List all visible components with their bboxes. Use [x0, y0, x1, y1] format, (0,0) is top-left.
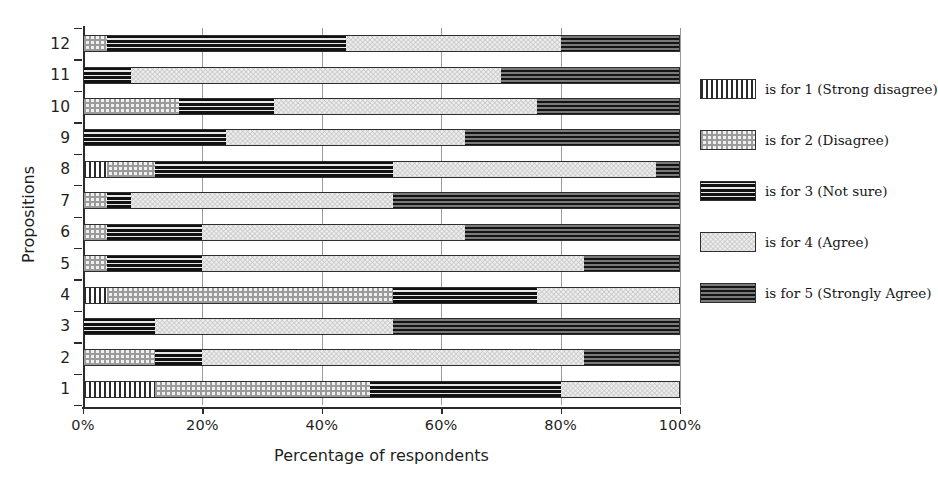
bar-segment-not-sure	[155, 161, 394, 178]
bar-segment-agree	[393, 161, 656, 178]
y-tick	[74, 91, 82, 92]
y-tick	[74, 28, 82, 29]
legend-item-disagree: is for 2 (Disagree)	[700, 129, 935, 151]
x-tick-label: 80%	[544, 417, 577, 433]
bar-segment-disagree	[83, 192, 107, 209]
y-tick-label-3: 3	[60, 317, 70, 335]
bar-segment-strongly-agree	[584, 349, 680, 366]
y-tick-label-2: 2	[60, 349, 70, 367]
x-axis-line	[82, 407, 681, 409]
y-tick-label-10: 10	[50, 98, 70, 116]
x-tick	[83, 407, 84, 414]
x-tick-label: 40%	[305, 417, 338, 433]
bar-segment-agree	[226, 129, 465, 146]
bar-segment-not-sure	[83, 129, 226, 146]
bar-segment-agree	[131, 67, 501, 84]
bar-segment-agree	[155, 318, 394, 335]
bar-segment-strong-disagree	[83, 287, 107, 304]
gridline	[680, 28, 681, 405]
bar-segment-agree	[346, 35, 561, 52]
bar-segment-not-sure	[370, 381, 561, 398]
y-tick-label-1: 1	[60, 380, 70, 398]
bar-segment-not-sure	[107, 255, 203, 272]
y-tick-label-4: 4	[60, 286, 70, 304]
bar-row	[83, 161, 680, 178]
x-tick	[202, 407, 203, 414]
y-axis-title: Propositions	[19, 135, 38, 295]
bar-segment-strongly-agree	[561, 35, 680, 52]
x-tick-label: 20%	[186, 417, 219, 433]
y-tick-label-7: 7	[60, 192, 70, 210]
bar-segment-not-sure	[107, 35, 346, 52]
legend-item-not-sure: is for 3 (Not sure)	[700, 180, 935, 202]
bar-segment-strongly-agree	[537, 98, 680, 115]
y-tick-label-5: 5	[60, 255, 70, 273]
bar-segment-agree	[561, 381, 680, 398]
bar-segment-agree	[274, 98, 537, 115]
bar-segment-disagree	[107, 161, 155, 178]
x-tick	[561, 407, 562, 414]
x-tick	[322, 407, 323, 414]
legend-item-agree: is for 4 (Agree)	[700, 231, 935, 253]
bar-segment-strongly-agree	[584, 255, 680, 272]
legend-item-strongly-agree: is for 5 (Strongly Agree)	[700, 282, 935, 304]
bar-segment-strongly-agree	[656, 161, 680, 178]
legend-label: is for 3 (Not sure)	[765, 183, 888, 199]
y-tick-label-8: 8	[60, 160, 70, 178]
legend-swatch-strongly-agree	[700, 283, 756, 303]
y-tick	[74, 122, 82, 123]
bar-segment-strongly-agree	[465, 224, 680, 241]
bar-segment-not-sure	[83, 318, 155, 335]
y-tick	[74, 311, 82, 312]
x-tick-label: 60%	[425, 417, 458, 433]
bar-segment-disagree	[83, 349, 155, 366]
bar-row	[83, 255, 680, 272]
legend-label: is for 1 (Strong disagree)	[765, 81, 938, 97]
x-tick	[441, 407, 442, 414]
bar-segment-agree	[537, 287, 680, 304]
y-tick	[74, 374, 82, 375]
bar-row	[83, 129, 680, 146]
bar-segment-agree	[131, 192, 394, 209]
x-tick-label: 0%	[71, 417, 94, 433]
bar-segment-agree	[202, 349, 584, 366]
y-tick	[74, 248, 82, 249]
bar-segment-strongly-agree	[501, 67, 680, 84]
bar-segment-disagree	[107, 287, 394, 304]
y-tick	[74, 279, 82, 280]
bar-row	[83, 67, 680, 84]
y-tick	[74, 405, 82, 406]
legend: is for 1 (Strong disagree)is for 2 (Disa…	[700, 78, 935, 333]
bar-segment-not-sure	[107, 224, 203, 241]
y-tick	[74, 59, 82, 60]
bar-row	[83, 349, 680, 366]
y-tick	[74, 154, 82, 155]
bar-row	[83, 381, 680, 398]
bar-row	[83, 318, 680, 335]
y-tick	[74, 217, 82, 218]
bar-segment-not-sure	[83, 67, 131, 84]
legend-swatch-agree	[700, 232, 756, 252]
bar-row	[83, 98, 680, 115]
legend-swatch-not-sure	[700, 181, 756, 201]
bar-row	[83, 287, 680, 304]
x-tick	[680, 407, 681, 414]
bar-segment-strong-disagree	[83, 381, 155, 398]
legend-swatch-disagree	[700, 130, 756, 150]
bar-segment-not-sure	[179, 98, 275, 115]
bar-segment-agree	[202, 255, 584, 272]
bar-row	[83, 35, 680, 52]
bar-segment-disagree	[83, 224, 107, 241]
legend-item-strong-disagree: is for 1 (Strong disagree)	[700, 78, 935, 100]
y-tick-label-11: 11	[50, 66, 70, 84]
x-tick-label: 100%	[659, 417, 701, 433]
legend-label: is for 2 (Disagree)	[765, 132, 889, 148]
bar-row	[83, 224, 680, 241]
x-axis-title: Percentage of respondents	[83, 446, 680, 465]
y-tick-label-12: 12	[50, 35, 70, 53]
bar-segment-disagree	[83, 255, 107, 272]
y-tick-label-9: 9	[60, 129, 70, 147]
bar-segment-disagree	[83, 35, 107, 52]
legend-swatch-strong-disagree	[700, 79, 756, 99]
